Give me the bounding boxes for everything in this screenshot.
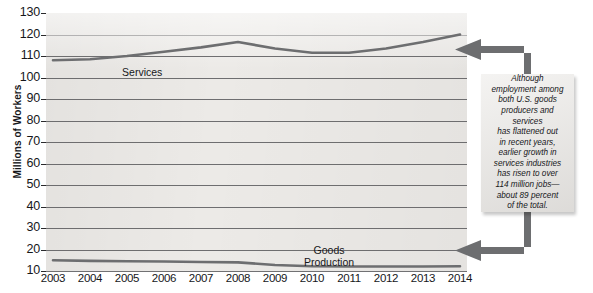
series-lines [46, 13, 467, 271]
y-axis-label: 40 [0, 199, 40, 213]
y-axis-label: 70 [0, 134, 40, 148]
y-axis-label: 20 [0, 242, 40, 256]
y-axis-label: 120 [0, 27, 40, 41]
y-axis-label: 50 [0, 177, 40, 191]
x-axis-label: 2014 [438, 272, 482, 284]
y-axis-label: 100 [0, 70, 40, 84]
y-axis-label: 60 [0, 156, 40, 170]
series-label-goods: Goods Production [294, 244, 364, 268]
y-axis-label: 80 [0, 113, 40, 127]
chart-figure: Millions of Workers 13012011010090807060… [0, 0, 593, 293]
y-axis-label: 90 [0, 91, 40, 105]
series-line [53, 260, 460, 266]
y-axis-label: 110 [0, 48, 40, 62]
y-axis-label: 30 [0, 220, 40, 234]
series-label-services: Services [112, 66, 172, 78]
y-axis-title: Millions of Workers [12, 72, 23, 192]
callout-text: Although employment among both U.S. good… [487, 74, 569, 212]
y-axis-label: 130 [0, 5, 40, 19]
plot-area: Services Goods Production [46, 13, 467, 271]
callout-box: Although employment among both U.S. good… [481, 74, 574, 212]
series-line [53, 35, 460, 61]
